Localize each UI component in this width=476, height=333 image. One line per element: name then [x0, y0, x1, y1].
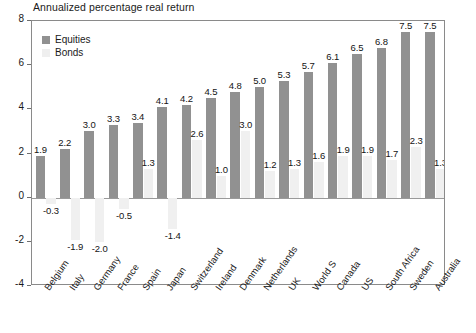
bar-value-equities: 4.1	[152, 95, 172, 106]
bar-bonds	[46, 198, 56, 205]
bar-equities	[60, 149, 70, 198]
bar-group: 4.1-1.4	[154, 21, 178, 284]
legend-swatch-equities-icon	[42, 36, 50, 44]
bar-bonds	[265, 171, 275, 198]
y-axis-tick-label: 6	[18, 57, 24, 68]
bar-equities	[84, 131, 94, 197]
bar-value-equities: 6.8	[372, 36, 392, 47]
y-axis: 86420-2-4	[0, 20, 31, 285]
bar-bonds	[168, 198, 178, 229]
legend-swatch-bonds-icon	[42, 49, 50, 57]
bar-group: 5.01.2	[251, 21, 275, 284]
bar-value-equities: 6.1	[323, 51, 343, 62]
bar-value-bonds: 1.3	[430, 157, 445, 168]
bar-bonds	[241, 131, 251, 197]
bar-equities	[182, 105, 192, 198]
bar-equities	[279, 81, 289, 198]
bar-bonds	[387, 160, 397, 198]
bar-equities	[377, 48, 387, 198]
bar-group: 6.11.9	[324, 21, 348, 284]
bar-equities	[157, 107, 167, 198]
bar-group: 5.71.6	[300, 21, 324, 284]
bar-group: 4.83.0	[227, 21, 251, 284]
bar-value-equities: 6.5	[347, 42, 367, 53]
bar-bonds	[217, 176, 227, 198]
bar-equities	[36, 156, 46, 198]
y-axis-tick-label: 0	[18, 190, 24, 201]
bar-bonds	[95, 198, 105, 242]
bar-value-equities: 4.5	[201, 86, 221, 97]
bar-bonds	[338, 156, 348, 198]
bar-group: 6.51.9	[349, 21, 373, 284]
bar-group: 7.52.3	[397, 21, 421, 284]
bar-value-equities: 5.3	[274, 69, 294, 80]
bar-group: 6.81.7	[373, 21, 397, 284]
legend-label-equities: Equities	[55, 34, 91, 47]
bar-value-equities: 5.7	[299, 60, 319, 71]
y-axis-tick-label: 8	[18, 13, 24, 24]
bar-value-equities: 2.2	[55, 137, 75, 148]
bar-value-equities: 4.8	[226, 80, 246, 91]
bar-bonds	[363, 156, 373, 198]
bar-value-equities: 7.5	[396, 20, 416, 31]
bar-bonds	[290, 169, 300, 198]
bar-equities	[109, 125, 119, 198]
bar-equities	[255, 87, 265, 197]
bar-equities	[304, 72, 314, 198]
bar-group: 2.2-1.9	[56, 21, 80, 284]
bar-equities	[230, 92, 240, 198]
legend-item-bonds: Bonds	[42, 47, 91, 60]
chart-title: Annualized percentage real return	[33, 1, 195, 13]
bar-group: 4.51.0	[202, 21, 226, 284]
legend-item-equities: Equities	[42, 34, 91, 47]
y-axis-tick-label: 2	[18, 146, 24, 157]
bar-value-equities: 4.2	[177, 93, 197, 104]
y-axis-tick-label: -4	[15, 278, 24, 289]
bar-equities	[328, 63, 338, 198]
bar-bonds	[436, 169, 445, 198]
y-axis-tick-label: -2	[15, 234, 24, 245]
x-axis: BelgiumItalyGermanyFranceSpainJapanSwitz…	[31, 286, 445, 333]
bar-bonds	[411, 147, 421, 198]
bar-bonds	[192, 140, 202, 197]
legend-label-bonds: Bonds	[55, 47, 83, 60]
bar-bonds	[71, 198, 81, 240]
bar-group: 3.0-2.0	[81, 21, 105, 284]
bar-equities	[352, 54, 362, 198]
bar-value-equities: 1.9	[31, 144, 50, 155]
plot-area: 1.9-0.32.2-1.93.0-2.03.3-0.53.41.34.1-1.…	[31, 20, 445, 285]
bar-group: 7.51.3	[422, 21, 445, 284]
bar-bonds	[119, 198, 129, 209]
bar-group: 3.41.3	[129, 21, 153, 284]
bar-value-equities: 5.0	[250, 75, 270, 86]
bar-value-equities: 3.0	[79, 119, 99, 130]
bar-group: 4.22.6	[178, 21, 202, 284]
chart-container: Annualized percentage real return 86420-…	[0, 0, 476, 333]
bar-equities	[425, 32, 435, 198]
bar-group: 1.9-0.3	[32, 21, 56, 284]
bar-equities	[206, 98, 216, 197]
bar-bonds	[314, 162, 324, 197]
bar-group: 3.3-0.5	[105, 21, 129, 284]
bar-value-equities: 7.5	[420, 20, 440, 31]
bar-value-equities: 3.4	[128, 111, 148, 122]
bar-equities	[401, 32, 411, 198]
bar-group: 5.31.3	[276, 21, 300, 284]
chart-legend: Equities Bonds	[42, 34, 91, 59]
y-axis-tick-label: 4	[18, 101, 24, 112]
bar-value-equities: 3.3	[104, 113, 124, 124]
bar-bonds	[144, 169, 154, 198]
